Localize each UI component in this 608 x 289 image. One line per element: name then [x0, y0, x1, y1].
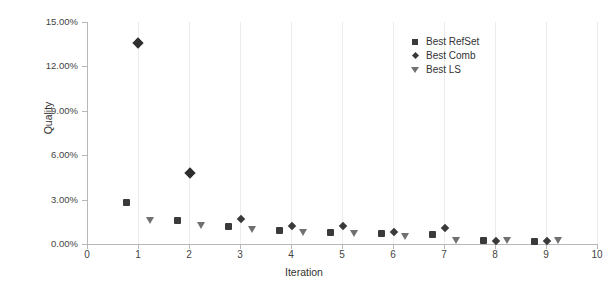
data-point-triangle-down	[401, 233, 409, 240]
gridline	[138, 22, 139, 244]
gridline	[240, 22, 241, 244]
data-point-square	[327, 229, 334, 236]
x-tick-label: 1	[123, 249, 153, 260]
data-point-square	[174, 217, 181, 224]
chart-legend: Best RefSet Best Comb Best LS	[409, 35, 479, 77]
data-point-triangle-down	[299, 229, 307, 236]
data-point-square	[123, 199, 130, 206]
y-tick	[82, 111, 87, 112]
data-point-triangle-down	[503, 237, 511, 244]
y-tick-label: 9.00%	[0, 105, 78, 116]
x-tick-label: 0	[72, 249, 102, 260]
gridline	[495, 22, 496, 244]
data-point-diamond	[184, 168, 195, 179]
data-point-diamond	[237, 214, 245, 222]
y-axis-line	[87, 22, 88, 245]
legend-item-label: Best LS	[426, 64, 461, 75]
x-tick-label: 6	[378, 249, 408, 260]
legend-item-label: Best RefSet	[426, 36, 479, 47]
y-tick-label: 15.00%	[0, 16, 78, 27]
legend-item-label: Best Comb	[426, 50, 475, 61]
data-point-diamond	[288, 222, 296, 230]
legend-item-best-refset[interactable]: Best RefSet	[409, 35, 479, 48]
x-axis-title: Iteration	[0, 266, 608, 278]
data-point-diamond	[441, 223, 449, 231]
data-point-diamond	[339, 222, 347, 230]
gridline	[291, 22, 292, 244]
x-tick-label: 9	[531, 249, 561, 260]
triangle-down-marker-icon	[409, 67, 421, 73]
data-point-square	[429, 231, 436, 238]
y-tick-label: 12.00%	[0, 60, 78, 71]
y-tick	[82, 66, 87, 67]
y-tick	[82, 155, 87, 156]
data-point-square	[378, 230, 385, 237]
data-point-diamond	[390, 228, 398, 236]
y-tick-label: 3.00%	[0, 194, 78, 205]
y-tick-label: 0.00%	[0, 238, 78, 249]
gridline	[189, 22, 190, 244]
diamond-marker-icon	[409, 53, 421, 58]
x-tick-label: 3	[225, 249, 255, 260]
data-point-triangle-down	[146, 217, 154, 224]
x-tick-label: 7	[429, 249, 459, 260]
x-tick-label: 2	[174, 249, 204, 260]
scatter-chart: 0.00%3.00%6.00%9.00%12.00%15.00% 0123456…	[0, 0, 608, 289]
data-point-triangle-down	[452, 237, 460, 244]
y-tick	[82, 22, 87, 23]
data-point-square	[276, 227, 283, 234]
data-point-diamond	[132, 38, 143, 49]
data-point-square	[225, 223, 232, 230]
data-point-triangle-down	[554, 237, 562, 244]
x-tick-label: 8	[480, 249, 510, 260]
gridline	[597, 22, 598, 244]
gridline	[393, 22, 394, 244]
legend-item-best-ls[interactable]: Best LS	[409, 63, 479, 76]
x-tick-label: 10	[582, 249, 608, 260]
y-axis-title: Quality	[42, 58, 54, 178]
y-tick	[82, 200, 87, 201]
legend-item-best-comb[interactable]: Best Comb	[409, 49, 479, 62]
data-point-triangle-down	[350, 230, 358, 237]
x-tick-label: 5	[327, 249, 357, 260]
data-point-square	[531, 238, 538, 245]
data-point-triangle-down	[248, 226, 256, 233]
gridline	[546, 22, 547, 244]
y-tick-label: 6.00%	[0, 149, 78, 160]
square-marker-icon	[409, 39, 421, 45]
x-tick-label: 4	[276, 249, 306, 260]
data-point-square	[480, 237, 487, 244]
gridline	[342, 22, 343, 244]
data-point-triangle-down	[197, 222, 205, 229]
